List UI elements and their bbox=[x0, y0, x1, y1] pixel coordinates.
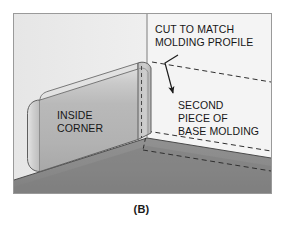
label-second-piece-line3: BASE MOLDING bbox=[178, 125, 259, 137]
label-cut-to-match-line2: MOLDING PROFILE bbox=[155, 36, 253, 48]
base-molding-inside-corner-illustration: INSIDE CORNER CUT TO MATCH MOLDING PROFI… bbox=[0, 0, 283, 226]
label-second-piece-line1: SECOND bbox=[178, 99, 224, 111]
label-inside-corner-line2: CORNER bbox=[57, 122, 103, 134]
label-second-piece-line2: PIECE OF bbox=[178, 112, 228, 124]
label-inside-corner-line1: INSIDE bbox=[57, 109, 93, 121]
figure-caption: (B) bbox=[0, 203, 283, 215]
figure-container: INSIDE CORNER CUT TO MATCH MOLDING PROFI… bbox=[0, 0, 283, 226]
molding-cut-end-cap bbox=[138, 62, 151, 139]
label-cut-to-match-line1: CUT TO MATCH bbox=[155, 23, 234, 35]
molding-left-end-cap bbox=[28, 100, 41, 172]
